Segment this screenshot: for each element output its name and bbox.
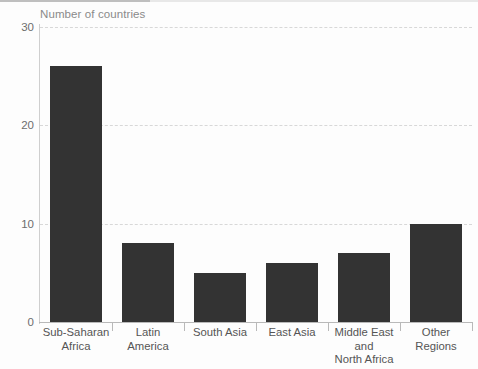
y-tick-label-0: 0 bbox=[6, 316, 34, 328]
x-label-line: Latin bbox=[136, 326, 161, 338]
y-axis-tick-labels: 0102030 bbox=[0, 0, 34, 369]
x-label-line: Regions bbox=[415, 340, 456, 352]
x-label-line: Other bbox=[422, 326, 450, 338]
x-label-line: Sub-Saharan bbox=[43, 326, 110, 338]
x-label-line: Middle East and bbox=[334, 326, 393, 352]
x-axis-label: LatinAmerica bbox=[112, 326, 184, 353]
x-axis-tick bbox=[400, 322, 401, 331]
bar bbox=[266, 263, 318, 322]
x-axis-label: Sub-SaharanAfrica bbox=[40, 326, 112, 353]
bar bbox=[122, 243, 174, 322]
x-label-line: South Asia bbox=[193, 326, 247, 338]
x-label-line: North Africa bbox=[334, 353, 393, 365]
bar bbox=[194, 273, 246, 322]
x-label-line: East Asia bbox=[268, 326, 315, 338]
bar bbox=[410, 224, 462, 322]
x-axis-tick bbox=[184, 322, 185, 331]
bar bbox=[50, 66, 102, 322]
x-label-line: America bbox=[127, 340, 168, 352]
bar bbox=[338, 253, 390, 322]
x-label-line: Africa bbox=[62, 340, 91, 352]
x-axis-tick bbox=[472, 322, 473, 331]
x-axis-label: East Asia bbox=[256, 326, 328, 340]
x-axis-tick bbox=[112, 322, 113, 331]
y-tick-label-10: 10 bbox=[6, 218, 34, 230]
y-tick-label-20: 20 bbox=[6, 119, 34, 131]
bars-layer bbox=[40, 0, 472, 369]
bar-chart-figure: Number of countries 0102030 Sub-SaharanA… bbox=[0, 0, 478, 369]
x-axis-tick bbox=[256, 322, 257, 331]
x-axis-tick-labels: Sub-SaharanAfricaLatinAmericaSouth AsiaE… bbox=[40, 326, 472, 369]
x-axis-label: OtherRegions bbox=[400, 326, 472, 353]
y-tick-label-30: 30 bbox=[6, 21, 34, 33]
x-axis-label: South Asia bbox=[184, 326, 256, 340]
x-axis-tick bbox=[328, 322, 329, 331]
x-axis-label: Middle East andNorth Africa bbox=[328, 326, 400, 367]
